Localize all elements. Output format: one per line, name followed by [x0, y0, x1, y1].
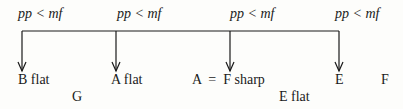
dynamic-marking-1: pp < mf [18, 6, 62, 22]
note-label-e-flat: E flat [279, 89, 310, 105]
note-label-f: F [381, 72, 389, 88]
note-label-e: E [335, 72, 344, 88]
note-label-a-f-sharp: A = F sharp [192, 72, 265, 88]
note-label-g: G [72, 89, 82, 105]
note-label-b-flat: B flat [18, 72, 50, 88]
dynamic-marking-3: pp < mf [230, 6, 274, 22]
dynamic-marking-2: pp < mf [117, 6, 161, 22]
note-label-a-flat: A flat [111, 72, 143, 88]
dynamic-marking-4: pp < mf [335, 6, 379, 22]
